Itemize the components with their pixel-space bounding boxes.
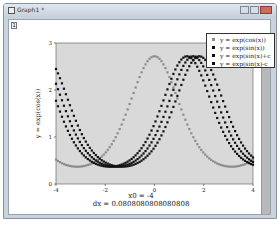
square-marker-icon	[212, 62, 215, 65]
legend[interactable]: y = exp(cos(x)) y = exp(sin(x)) y = exp(…	[206, 33, 275, 68]
title-bar[interactable]: Graph1 *	[4, 4, 276, 18]
legend-label: y = exp(sin(x)+c	[220, 52, 271, 59]
x-tick-label: 2	[202, 187, 206, 193]
y-tick-label: 1	[49, 134, 53, 140]
maximize-button[interactable]	[250, 6, 259, 14]
y-axis-label: y = exp(cos(x))	[34, 88, 42, 139]
y-tick-label: 0	[49, 181, 53, 187]
square-marker-icon	[212, 38, 215, 41]
legend-label: y = exp(cos(x))	[220, 36, 266, 43]
y-tick-label: 2	[49, 87, 53, 93]
x-tick-label: -4	[53, 187, 59, 193]
graph-page[interactable]: 1 -4-20240123y = exp(cos(x)) y = exp(cos…	[8, 19, 271, 215]
legend-label: y = exp(sin(x))	[220, 44, 265, 51]
legend-item: y = exp(sin(x)-c	[209, 59, 272, 67]
square-marker-icon	[212, 54, 215, 57]
legend-item: y = exp(sin(x))	[209, 43, 272, 51]
y-tick-label: 3	[49, 40, 53, 46]
window-controls	[239, 6, 272, 14]
window-title: Graph1 *	[17, 6, 44, 13]
square-marker-icon	[212, 46, 215, 49]
dx-annotation[interactable]: dx = 0.0808080808080808	[81, 200, 201, 208]
legend-item: y = exp(sin(x)+c	[209, 51, 272, 59]
window-menu-icon[interactable]	[8, 7, 15, 14]
close-button[interactable]	[260, 6, 272, 14]
legend-label: y = exp(sin(x)-c	[220, 60, 268, 67]
x0-annotation[interactable]: x0 = -4	[101, 192, 181, 200]
minimize-button[interactable]	[240, 6, 249, 14]
graph-window: Graph1 * 1 -4-20240123y = exp(cos(x)) y …	[3, 3, 277, 219]
x-tick-label: 4	[251, 187, 255, 193]
legend-item: y = exp(cos(x))	[209, 35, 272, 43]
